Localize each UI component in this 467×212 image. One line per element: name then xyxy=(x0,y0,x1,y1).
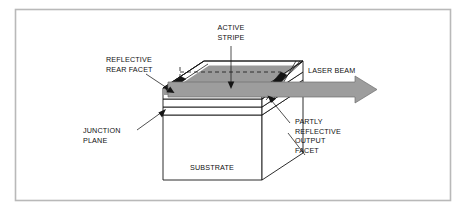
label-output-facet-line4: FACET xyxy=(295,146,319,155)
label-reflective-rear-facet-line1: REFLECTIVE xyxy=(106,55,152,64)
label-junction-plane-line1: JUNCTION xyxy=(83,126,121,135)
label-substrate: SUBSTRATE xyxy=(190,163,234,172)
label-active-stripe-line2: STRIPE xyxy=(218,33,245,42)
label-laser-beam: LASER BEAM xyxy=(308,66,355,75)
junction-plane-leader xyxy=(137,112,162,130)
label-output-facet-line3: OUTPUT xyxy=(295,136,326,145)
label-output-facet-line1: PARTLY xyxy=(295,117,323,126)
junction-layer-front xyxy=(163,107,262,115)
label-reflective-rear-facet-line2: REAR FACET xyxy=(106,65,153,74)
label-output-facet-line2: REFLECTIVE xyxy=(295,127,341,136)
label-active-stripe-line1: ACTIVE xyxy=(218,23,245,32)
figure-canvas: ACTIVE STRIPE REFLECTIVE REAR FACET JUNC… xyxy=(0,0,467,212)
active-layer-front xyxy=(163,99,262,107)
label-junction-plane-line2: PLANE xyxy=(83,136,107,145)
laser-diode-diagram: ACTIVE STRIPE REFLECTIVE REAR FACET JUNC… xyxy=(0,0,467,212)
rear-facet-leader xyxy=(146,74,170,90)
